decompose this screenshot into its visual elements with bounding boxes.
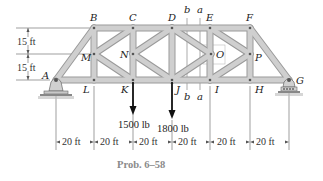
load-arrow-K [130, 82, 137, 115]
section-label-b-top: b [184, 4, 190, 15]
load-arrow-J [169, 82, 176, 119]
joint-label-L: L [82, 84, 90, 95]
joint-label-M: M [80, 52, 92, 63]
dim-LK: 20 ft [100, 136, 119, 147]
joint-label-B: B [89, 12, 97, 23]
dim-15ft-lower: 15 ft [17, 62, 36, 73]
dim-JI: 20 ft [178, 136, 197, 147]
section-label-a-top: a [197, 4, 203, 15]
truss-diagram: 15 ft 15 ft b a b a [0, 0, 323, 181]
load-label-1500: 1500 lb [118, 119, 150, 130]
joint-label-N: N [119, 49, 130, 60]
dim-15ft-upper: 15 ft [17, 36, 36, 47]
horizontal-dimension-arrows [56, 141, 289, 144]
joint-label-G: G [296, 75, 304, 86]
joint-label-C: C [129, 12, 137, 23]
joint-label-P: P [254, 52, 262, 63]
joint-label-H: H [254, 84, 264, 95]
section-label-b-bottom: b [184, 91, 190, 102]
joint-label-A: A [41, 70, 49, 81]
load-label-1800: 1800 lb [157, 123, 189, 134]
section-label-a-bottom: a [197, 91, 203, 102]
joint-label-D: D [167, 12, 176, 23]
dim-KJ: 20 ft [139, 136, 158, 147]
dim-IH: 20 ft [217, 136, 236, 147]
dim-HG: 20 ft [256, 136, 275, 147]
joint-label-I: I [214, 84, 220, 95]
joint-label-O: O [216, 49, 224, 60]
joint-label-J: J [174, 84, 181, 95]
joint-label-K: K [120, 84, 129, 95]
joint-label-E: E [205, 12, 214, 23]
dim-AL: 20 ft [62, 136, 81, 147]
figure-caption: Prob. 6–58 [117, 159, 165, 170]
joint-label-F: F [245, 12, 254, 23]
